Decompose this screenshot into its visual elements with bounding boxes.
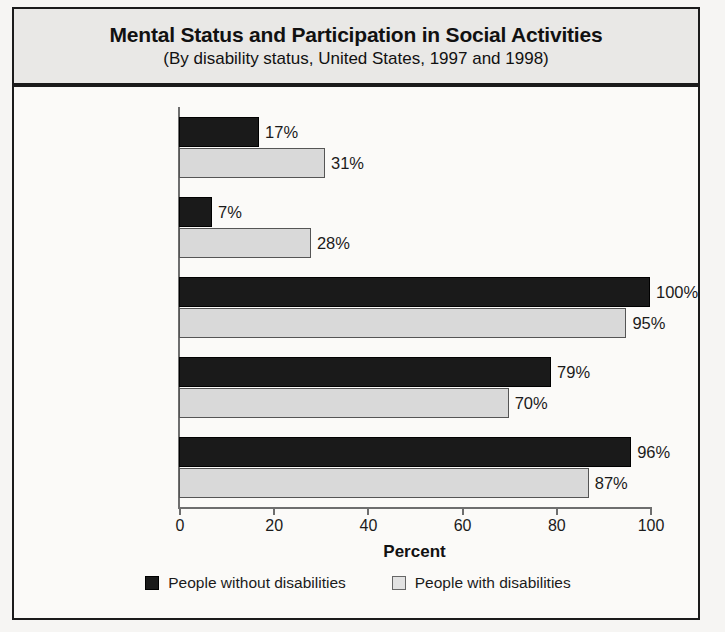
x-axis-tick-label: 100 [638,517,665,535]
x-axis-line [179,507,651,509]
x-axis-tick-label: 60 [454,517,472,535]
x-axis-tick-label: 40 [359,517,377,535]
bar-without-disabilities [179,117,259,147]
bar-with-disabilities [179,388,509,418]
x-axis-tick-label: 20 [265,517,283,535]
bar-value-label: 96% [637,444,670,461]
bar-value-label: 7% [218,204,242,221]
category-group: Adults reported satisfaction with life**… [179,437,650,498]
bar-value-label: 87% [595,475,628,492]
bar-value-label: 17% [265,124,298,141]
dark-square-swatch [145,576,159,590]
x-axis-tick [273,507,275,515]
legend-item: People with disabilities [392,574,571,592]
bar-value-label: 31% [331,155,364,172]
bar-value-label: 100% [656,284,698,301]
bar-with-disabilities [179,228,311,258]
x-axis-tick [179,507,181,515]
x-axis-tick [556,507,558,515]
plot-panel: 020406080100 Percent Children reported s… [12,85,700,620]
category-group: Adult participation in social activities… [179,277,650,338]
legend-item: People without disabilities [145,574,346,592]
x-axis-title: Percent [179,542,650,562]
bar-value-label: 70% [515,395,548,412]
bar-without-disabilities [179,437,631,467]
x-axis-tick [462,507,464,515]
chart-title: Mental Status and Participation in Socia… [110,23,603,47]
plot-area: Children reported sad, unhappy, depresse… [179,107,650,507]
category-group: Children reported sad, unhappy, depresse… [179,117,650,178]
bar-with-disabilities [179,468,589,498]
category-group: Adults reported sufficient emotional sup… [179,357,650,418]
title-panel: Mental Status and Participation in Socia… [12,7,700,85]
light-square-swatch [392,576,406,590]
chart-subtitle: (By disability status, United States, 19… [163,49,549,69]
chart-legend: People without disabilitiesPeople with d… [14,574,700,592]
legend-label: People with disabilities [415,574,571,592]
bar-without-disabilities [179,357,551,387]
bar-value-label: 79% [557,364,590,381]
category-group: Adults reported feelings interfering wit… [179,197,650,258]
legend-label: People without disabilities [168,574,346,592]
x-axis-tick [367,507,369,515]
bar-value-label: 28% [317,235,350,252]
x-axis-tick-label: 0 [176,517,185,535]
bar-value-label: 95% [632,315,665,332]
x-axis-tick-label: 80 [548,517,566,535]
bar-without-disabilities [179,277,650,307]
x-axis-tick [650,507,652,515]
bar-with-disabilities [179,308,626,338]
bar-without-disabilities [179,197,212,227]
bar-with-disabilities [179,148,325,178]
figure-root: Mental Status and Participation in Socia… [0,0,725,632]
